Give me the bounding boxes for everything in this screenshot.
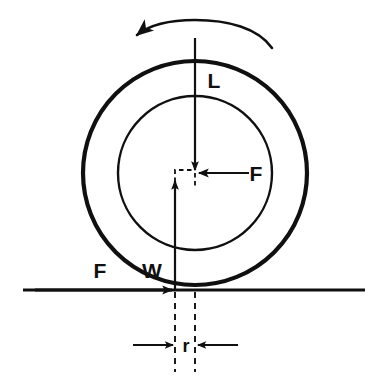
- label-reaction: W: [142, 259, 162, 282]
- offset-extension-lines: [175, 292, 195, 372]
- center-dashed-bracket: [175, 170, 195, 186]
- label-force-center: F: [250, 162, 263, 185]
- label-force-ground: F: [94, 259, 107, 282]
- force-diagram-figure: L F F W r: [0, 0, 380, 383]
- diagram-canvas: L F F W r: [0, 0, 380, 383]
- rotation-arrow: [137, 20, 272, 48]
- label-load: L: [208, 69, 221, 92]
- label-offset: r: [182, 336, 189, 356]
